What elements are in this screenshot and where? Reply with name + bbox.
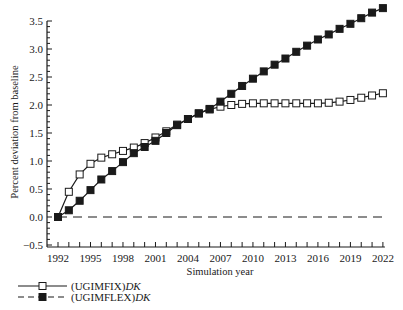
open-square-marker bbox=[260, 100, 267, 107]
y-tick-label: 0.0 bbox=[29, 211, 43, 223]
open-square-marker bbox=[87, 160, 94, 167]
line-chart: −0.50.00.51.01.52.02.53.03.5 19921995199… bbox=[0, 0, 403, 310]
open-square-marker bbox=[304, 100, 311, 107]
filled-square-marker bbox=[358, 15, 365, 22]
filled-square-marker bbox=[293, 48, 300, 55]
filled-square-marker bbox=[369, 9, 376, 16]
filled-square-marker bbox=[228, 90, 235, 97]
open-square-marker bbox=[109, 151, 116, 158]
open-square-marker bbox=[358, 94, 365, 101]
x-tick-label: 2001 bbox=[144, 252, 166, 264]
filled-square-marker bbox=[379, 5, 386, 12]
filled-square-marker bbox=[184, 116, 191, 123]
x-tick-label: 2013 bbox=[274, 252, 297, 264]
open-square-marker bbox=[65, 188, 72, 195]
filled-square-marker bbox=[152, 137, 159, 144]
series--ugimfix-dk bbox=[55, 90, 387, 221]
filled-square-marker bbox=[174, 122, 181, 129]
open-square-marker bbox=[293, 100, 300, 107]
filled-square-marker bbox=[163, 130, 170, 137]
open-square-marker bbox=[325, 99, 332, 106]
open-square-marker bbox=[98, 154, 105, 161]
filled-square-icon bbox=[39, 294, 46, 301]
legend: (UGIMFIX)DK(UGIMFLEX)DK bbox=[18, 280, 151, 304]
filled-square-marker bbox=[347, 20, 354, 27]
filled-square-marker bbox=[325, 31, 332, 38]
filled-square-marker bbox=[239, 82, 246, 89]
y-axis: −0.50.00.51.01.52.02.53.03.5 bbox=[23, 15, 52, 251]
filled-square-marker bbox=[314, 36, 321, 43]
open-square-marker bbox=[369, 92, 376, 99]
open-square-marker bbox=[282, 100, 289, 107]
open-square-marker bbox=[271, 100, 278, 107]
x-tick-label: 2019 bbox=[339, 252, 362, 264]
legend-label: (UGIMFLEX)DK bbox=[71, 291, 151, 304]
plot-area bbox=[55, 5, 387, 221]
legend-item: (UGIMFLEX)DK bbox=[18, 291, 151, 304]
open-square-marker bbox=[76, 171, 83, 178]
filled-square-marker bbox=[206, 105, 213, 112]
filled-square-marker bbox=[249, 75, 256, 82]
open-square-marker bbox=[314, 100, 321, 107]
open-square-marker bbox=[336, 98, 343, 105]
y-tick-label: 2.5 bbox=[29, 71, 43, 83]
y-tick-label: 2.0 bbox=[29, 99, 43, 111]
filled-square-marker bbox=[119, 159, 126, 166]
filled-square-marker bbox=[76, 197, 83, 204]
filled-square-marker bbox=[260, 68, 267, 75]
filled-square-marker bbox=[282, 55, 289, 62]
filled-square-marker bbox=[98, 176, 105, 183]
y-tick-label: 1.5 bbox=[29, 127, 43, 139]
open-square-icon bbox=[39, 283, 46, 290]
y-tick-label: 3.0 bbox=[29, 43, 43, 55]
open-square-marker bbox=[228, 102, 235, 109]
y-tick-label: 3.5 bbox=[29, 15, 43, 27]
filled-square-marker bbox=[141, 144, 148, 151]
x-tick-label: 2010 bbox=[242, 252, 265, 264]
filled-square-marker bbox=[217, 98, 224, 105]
x-tick-label: 2022 bbox=[372, 252, 394, 264]
filled-square-marker bbox=[87, 187, 94, 194]
y-tick-label: 1.0 bbox=[29, 155, 43, 167]
x-tick-label: 2004 bbox=[177, 252, 200, 264]
x-axis-title: Simulation year bbox=[187, 266, 254, 277]
open-square-marker bbox=[347, 96, 354, 103]
filled-square-marker bbox=[304, 42, 311, 49]
series--ugimflex-dk bbox=[55, 5, 387, 221]
open-square-marker bbox=[119, 147, 126, 154]
x-tick-label: 1998 bbox=[112, 252, 135, 264]
open-square-marker bbox=[249, 100, 256, 107]
filled-square-marker bbox=[336, 25, 343, 32]
filled-square-marker bbox=[65, 207, 72, 214]
x-tick-label: 2007 bbox=[209, 252, 232, 264]
x-tick-label: 1992 bbox=[47, 252, 69, 264]
filled-square-marker bbox=[109, 168, 116, 175]
x-axis: 1992199519982001200420072010201320162019… bbox=[47, 242, 394, 264]
y-tick-label: 0.5 bbox=[29, 183, 43, 195]
y-tick-label: −0.5 bbox=[23, 239, 43, 251]
filled-square-marker bbox=[195, 110, 202, 117]
open-square-marker bbox=[239, 100, 246, 107]
filled-square-marker bbox=[130, 150, 137, 157]
x-tick-label: 1995 bbox=[79, 252, 102, 264]
filled-square-marker bbox=[271, 61, 278, 68]
open-square-marker bbox=[379, 90, 386, 97]
x-tick-label: 2016 bbox=[307, 252, 330, 264]
y-axis-title: Percent deviation from baseline bbox=[9, 65, 20, 199]
